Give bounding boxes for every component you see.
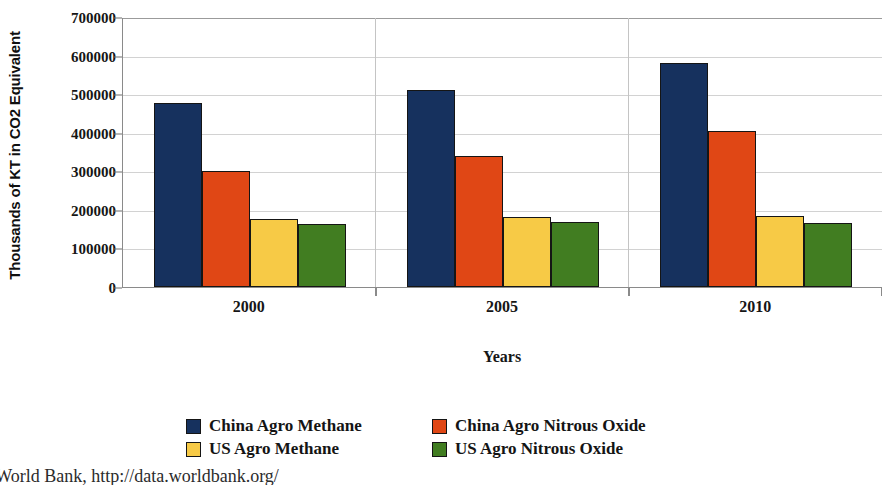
x-tick-mark (376, 287, 377, 296)
x-tick-label: 2000 (122, 298, 375, 316)
bar[interactable] (804, 223, 852, 287)
y-tick-label: 700000 (71, 10, 116, 27)
bar[interactable] (298, 224, 346, 287)
bar[interactable] (455, 156, 503, 287)
bar[interactable] (551, 222, 599, 287)
x-tick-mark (629, 287, 630, 296)
y-tick-mark (114, 249, 122, 250)
y-tick-label: 300000 (71, 164, 116, 181)
legend-label: US Agro Nitrous Oxide (455, 439, 623, 459)
y-tick-mark (114, 56, 122, 57)
bar[interactable] (250, 219, 298, 287)
chart-plot-area: 0100000200000300000400000500000600000700… (30, 6, 886, 306)
y-tick-mark (114, 18, 122, 19)
y-tick-mark (114, 288, 122, 289)
bar[interactable] (660, 63, 708, 287)
bar[interactable] (756, 216, 804, 287)
y-tick-label: 200000 (71, 202, 116, 219)
x-axis-tick-labels: 200020052010 (122, 298, 882, 316)
bar[interactable] (202, 171, 250, 287)
bar-group (629, 18, 882, 287)
bar-group (123, 18, 376, 287)
legend-item[interactable]: US Agro Nitrous Oxide (432, 439, 646, 459)
y-axis-tick-labels: 0100000200000300000400000500000600000700… (30, 6, 122, 288)
bar-group (376, 18, 629, 287)
y-tick-mark (114, 210, 122, 211)
legend-item[interactable]: China Agro Nitrous Oxide (432, 416, 646, 436)
y-tick-mark (114, 172, 122, 173)
legend-label: China Agro Nitrous Oxide (455, 416, 646, 436)
bar-groups (123, 18, 882, 287)
legend-swatch-icon (186, 442, 201, 457)
y-tick-mark (114, 133, 122, 134)
legend-item[interactable]: China Agro Methane (186, 416, 432, 436)
y-axis-title-text: Thousands of KT in CO2 Equivalent (6, 31, 23, 279)
legend-item[interactable]: US Agro Methane (186, 439, 432, 459)
legend-label: US Agro Methane (209, 439, 339, 459)
y-tick-label: 500000 (71, 87, 116, 104)
x-tick-label: 2005 (375, 298, 628, 316)
bar[interactable] (503, 217, 551, 287)
bar[interactable] (154, 103, 202, 287)
bar[interactable] (407, 90, 455, 287)
legend-swatch-icon (432, 419, 447, 434)
y-tick-label: 100000 (71, 241, 116, 258)
x-tick-mark (881, 287, 882, 296)
y-tick-label: 600000 (71, 48, 116, 65)
x-tick-label: 2010 (629, 298, 882, 316)
chart-legend: China Agro MethaneChina Agro Nitrous Oxi… (186, 416, 646, 459)
y-tick-label: 400000 (71, 125, 116, 142)
source-note: : World Bank, http://data.worldbank.org/ (0, 466, 279, 485)
legend-label: China Agro Methane (209, 416, 362, 436)
plot-canvas (122, 18, 882, 288)
x-axis-title: Years (122, 348, 882, 366)
legend-swatch-icon (432, 442, 447, 457)
legend-swatch-icon (186, 419, 201, 434)
y-axis-title: Thousands of KT in CO2 Equivalent (0, 0, 28, 310)
bar[interactable] (708, 131, 756, 287)
y-tick-mark (114, 95, 122, 96)
